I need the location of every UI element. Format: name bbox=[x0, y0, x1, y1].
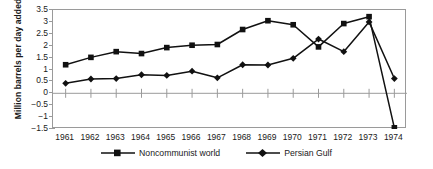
data-point-square bbox=[139, 51, 145, 57]
x-tick-label: 1972 bbox=[328, 133, 358, 142]
data-point-diamond bbox=[189, 68, 196, 75]
data-point-diamond bbox=[138, 71, 145, 78]
x-tick-label: 1971 bbox=[303, 133, 333, 142]
data-point-diamond bbox=[239, 61, 246, 68]
data-point-square bbox=[113, 49, 119, 55]
x-tick-label: 1967 bbox=[201, 133, 231, 142]
x-tick-label: 1962 bbox=[75, 133, 105, 142]
data-point-diamond bbox=[113, 75, 120, 82]
legend-label-persian-gulf: Persian Gulf bbox=[284, 148, 332, 158]
x-tick-label: 1968 bbox=[227, 133, 257, 142]
data-point-square bbox=[240, 27, 246, 33]
data-point-diamond bbox=[391, 75, 398, 82]
data-point-diamond bbox=[62, 80, 69, 87]
data-point-square bbox=[341, 21, 347, 27]
legend-label-noncommunist-world: Noncommunist world bbox=[139, 148, 220, 158]
data-point-square bbox=[189, 42, 195, 48]
y-axis-title: Million barrels per day added bbox=[13, 0, 23, 124]
data-point-square bbox=[290, 22, 296, 28]
square-marker-icon bbox=[101, 148, 135, 158]
data-point-square bbox=[265, 18, 271, 24]
data-point-diamond bbox=[214, 74, 221, 81]
legend-item-noncommunist-world: Noncommunist world bbox=[101, 148, 220, 158]
x-tick-label: 1963 bbox=[100, 133, 130, 142]
data-point-square bbox=[164, 45, 170, 51]
chart-legend: Noncommunist world Persian Gulf bbox=[0, 148, 433, 158]
data-point-square bbox=[63, 62, 69, 68]
series-line-1 bbox=[66, 17, 395, 128]
line-chart: Million barrels per day added 3.532.521.… bbox=[0, 0, 433, 169]
y-tick-label: −1.5 bbox=[18, 124, 48, 133]
x-tick-label: 1974 bbox=[378, 133, 408, 142]
data-point-square bbox=[316, 44, 322, 50]
x-tick-label: 1965 bbox=[151, 133, 181, 142]
data-point-diamond bbox=[265, 62, 272, 69]
x-tick-label: 1966 bbox=[176, 133, 206, 142]
data-point-diamond bbox=[88, 76, 95, 83]
data-point-square bbox=[88, 55, 94, 61]
data-point-square bbox=[392, 125, 398, 129]
data-point-diamond bbox=[163, 72, 170, 79]
x-tick-label: 1961 bbox=[50, 133, 80, 142]
x-tick-label: 1969 bbox=[252, 133, 282, 142]
plot-svg bbox=[53, 10, 407, 129]
diamond-marker-icon bbox=[246, 148, 280, 158]
x-tick-label: 1973 bbox=[353, 133, 383, 142]
plot-area bbox=[52, 9, 406, 128]
x-tick-label: 1970 bbox=[277, 133, 307, 142]
legend-item-persian-gulf: Persian Gulf bbox=[246, 148, 332, 158]
data-point-square bbox=[215, 42, 221, 48]
x-tick-label: 1964 bbox=[126, 133, 156, 142]
